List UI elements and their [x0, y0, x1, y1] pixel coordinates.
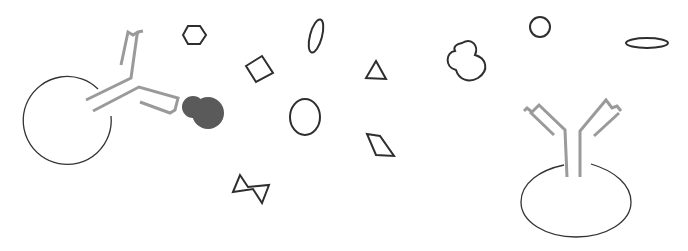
antibody-left: [86, 31, 178, 113]
antibody-right-arm-right-outer: [580, 100, 621, 177]
antibody-right-arm-right-inner: [594, 113, 619, 136]
antigen-tall-ellipse: [306, 18, 326, 54]
antigen-diamond: [367, 134, 394, 156]
antigen-triangle: [366, 61, 386, 79]
antibody-diagram: [0, 0, 688, 251]
antigen-oval: [290, 99, 320, 135]
bound-antigen-lobe-2: [192, 97, 224, 129]
antigen-blob: [448, 41, 486, 80]
antigen-bowtie: [233, 175, 269, 203]
antigen-flat-ellipse: [626, 38, 668, 48]
bound-antigen: [182, 96, 224, 129]
cell-right: [521, 164, 631, 237]
antigen-hexagon: [183, 26, 206, 44]
antibody-right: [524, 100, 621, 177]
antibody-left-heavy-chain-upper: [86, 32, 138, 100]
cell-left: [23, 76, 111, 164]
cell-left-membrane: [23, 76, 111, 164]
antibody-left-arm-up: [121, 31, 143, 65]
cell-right-membrane: [521, 164, 631, 237]
antigen-small-circle: [530, 17, 550, 37]
antigen-square: [246, 56, 273, 82]
